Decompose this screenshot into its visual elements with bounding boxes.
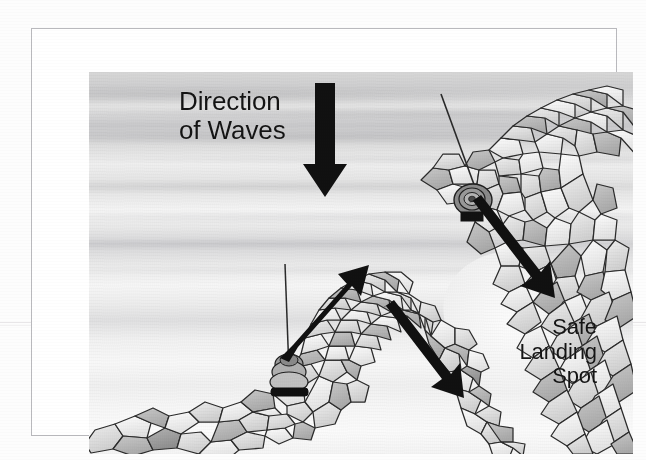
scanned-page: Direction of Waves Safe Landing Spot [0,0,646,460]
navigation-marker-left [270,264,308,396]
illustration-frame: Direction of Waves Safe Landing Spot [31,28,617,436]
safe-landing-spot-label: Safe Landing Spot [519,315,597,389]
diagram-artwork [89,72,633,454]
direction-of-waves-label: Direction of Waves [179,87,286,145]
illustration-canvas: Direction of Waves Safe Landing Spot [89,72,633,454]
wave-direction-arrow [303,83,347,197]
